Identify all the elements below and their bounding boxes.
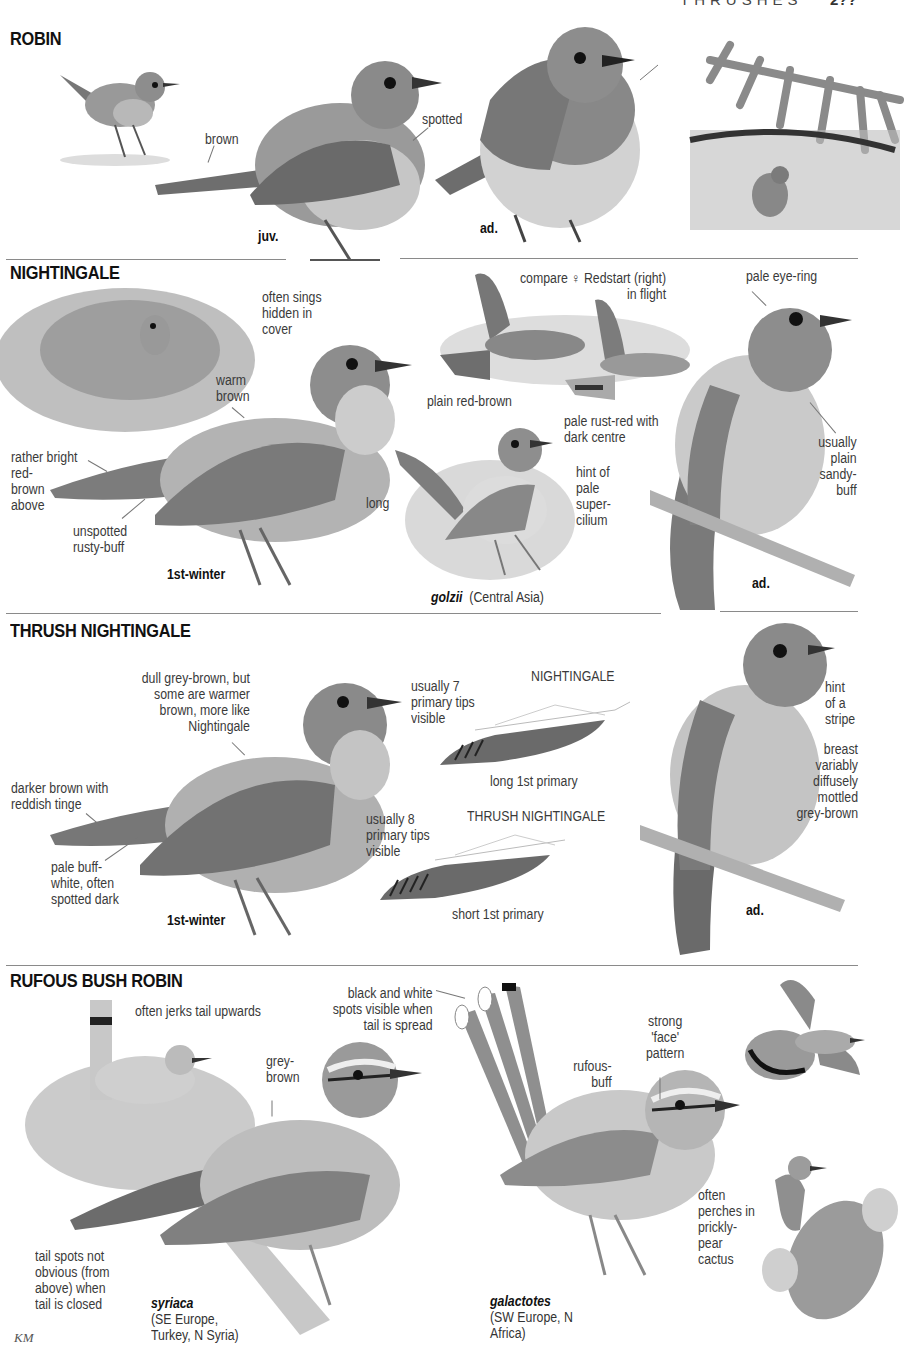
- label-perches-in-prickly-pear: often perches in prickly- pear cactus: [698, 1187, 755, 1267]
- label-nightingale-wing: NIGHTINGALE: [531, 668, 615, 684]
- section-divider: [400, 258, 858, 259]
- label-brown: brown: [205, 131, 239, 147]
- running-header-title: THRUSHES: [680, 0, 803, 8]
- subspecies-golzii: golzii (Central Asia): [431, 589, 544, 605]
- page-number: 2??: [830, 0, 857, 8]
- label-unspotted-rusty-buff: unspotted rusty-buff: [73, 523, 127, 555]
- label-often-jerks-tail-upwards: often jerks tail upwards: [135, 1003, 261, 1019]
- section-title-thrush-nightingale: THRUSH NIGHTINGALE: [10, 620, 191, 642]
- label-pale-eye-ring: pale eye-ring: [746, 268, 817, 284]
- label-hint-of-a-stripe: hint of a stripe: [825, 679, 855, 727]
- label-pale-rust-red-dark-centre: pale rust-red with dark centre: [564, 413, 659, 445]
- label-long-1st-primary: long 1st primary: [490, 773, 578, 789]
- robin-adult-illustration: [430, 20, 650, 245]
- nightingale-golzii-illustration: [395, 420, 575, 585]
- label-long: long: [366, 495, 389, 511]
- label-thrush-nightingale-wing: THRUSH NIGHTINGALE: [467, 808, 605, 824]
- label-pale-buff-white: pale buff- white, often spotted dark: [51, 859, 119, 907]
- section-divider: [6, 259, 286, 260]
- label-usually-7-primary-tips: usually 7 primary tips visible: [411, 678, 475, 726]
- label-rufous-buff: rufous- buff: [574, 1058, 612, 1090]
- leader-line: [660, 1078, 661, 1100]
- label-warm-brown: warm brown: [216, 372, 250, 404]
- age-label-juv: juv.: [258, 228, 278, 244]
- section-divider: [6, 613, 661, 614]
- age-label-1st-winter: 1st-winter: [167, 912, 225, 928]
- subspecies-galactotes: galactotes (SW Europe, N Africa): [490, 1293, 573, 1341]
- age-label-1st-winter: 1st-winter: [167, 566, 225, 582]
- label-breast-variably-mottled: breast variably diffusely mottled grey-b…: [796, 741, 858, 821]
- robin-juvenile-illustration: [150, 55, 445, 265]
- age-label-ad: ad.: [480, 220, 498, 236]
- age-label-ad: ad.: [746, 902, 764, 918]
- label-usually-plain-sandy-buff: usually plain sandy- buff: [819, 434, 857, 498]
- subspecies-syriaca: syriaca (SE Europe, Turkey, N Syria): [151, 1295, 239, 1343]
- label-black-white-spots-visible: black and white spots visible when tail …: [333, 985, 433, 1033]
- age-label-ad: ad.: [752, 575, 770, 591]
- section-divider: [720, 611, 858, 612]
- label-often-sings-hidden: often sings hidden in cover: [262, 289, 322, 337]
- section-title-robin: ROBIN: [10, 28, 61, 50]
- label-darker-brown-reddish: darker brown with reddish tinge: [11, 780, 108, 812]
- label-rather-bright-red-brown-above: rather bright red- brown above: [11, 449, 77, 513]
- label-hint-pale-supercilium: hint of pale super- cilium: [576, 464, 611, 528]
- label-strong-face-pattern: strong 'face' pattern: [646, 1013, 684, 1061]
- label-usually-8-primary-tips: usually 8 primary tips visible: [366, 811, 430, 859]
- leader-line: [272, 1101, 273, 1117]
- label-plain-red-brown: plain red-brown: [427, 393, 512, 409]
- section-divider: [6, 965, 858, 966]
- rufous-bush-robin-on-cactus-illustration: [745, 1130, 905, 1330]
- label-compare-redstart: compare ♀ Redstart (right) in flight: [520, 270, 666, 302]
- rufous-bush-robin-syriaca-illustration: [70, 1045, 430, 1345]
- label-short-1st-primary: short 1st primary: [452, 906, 544, 922]
- rufous-bush-robin-flight-illustration: [725, 970, 875, 1085]
- label-dull-grey-brown: dull grey-brown, but some are warmer bro…: [142, 670, 250, 734]
- label-grey-brown: grey- brown: [266, 1053, 300, 1085]
- robin-habitat-illustration: [670, 30, 907, 240]
- label-tail-spots-not-obvious: tail spots not obvious (from above) when…: [35, 1248, 110, 1312]
- section-title-rufous-bush-robin: RUFOUS BUSH ROBIN: [10, 970, 183, 992]
- artist-credit: KM: [14, 1330, 34, 1346]
